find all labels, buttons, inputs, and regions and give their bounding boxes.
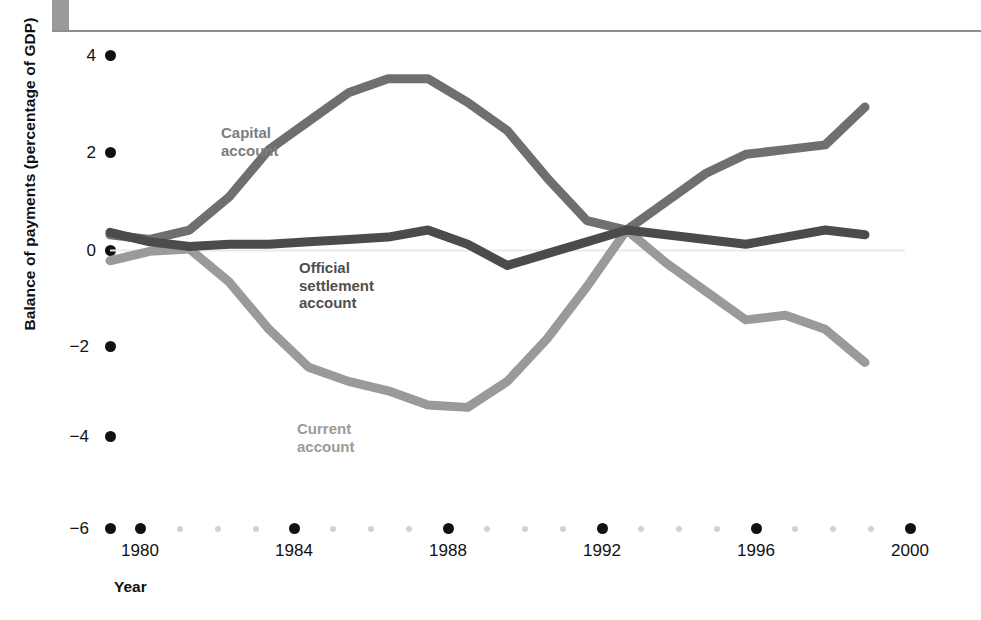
plot-area bbox=[0, 0, 981, 620]
series-label-official-line2: settlement bbox=[299, 277, 374, 295]
series-label-official-settlement-account: Official settlement account bbox=[299, 259, 374, 312]
series-label-current-line2: account bbox=[297, 438, 355, 456]
series-label-capital-line1: Capital bbox=[221, 124, 279, 142]
series-label-capital-line2: account bbox=[221, 142, 279, 160]
series-label-official-line3: account bbox=[299, 294, 374, 312]
chart-figure: Balance of payments (percentage of GDP) … bbox=[0, 0, 981, 620]
series-label-capital-account: Capital account bbox=[221, 124, 279, 159]
series-label-current-line1: Current bbox=[297, 420, 355, 438]
series-label-official-line1: Official bbox=[299, 259, 374, 277]
series-label-current-account: Current account bbox=[297, 420, 355, 455]
series-line-official-settlement-account bbox=[110, 230, 865, 265]
